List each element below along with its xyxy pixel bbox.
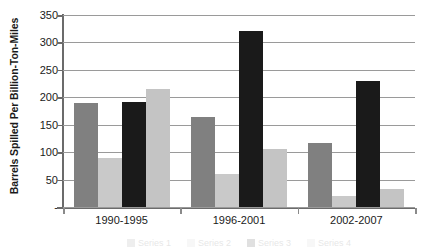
y-tick-label: 300: [22, 37, 58, 48]
y-tick-mark: [57, 125, 63, 127]
y-tick-label: 250: [22, 64, 58, 75]
y-tick-mark: [57, 15, 63, 17]
gridline-0: [63, 207, 415, 208]
y-tick-mark: [57, 152, 63, 154]
bar: [122, 102, 146, 207]
x-tick-mark: [180, 208, 182, 214]
legend-item: Series 3: [247, 238, 291, 248]
legend-item: Series 1: [127, 238, 171, 248]
x-tick-label: 2002-2007: [298, 214, 415, 226]
legend-swatch: [187, 239, 195, 247]
legend-item: Series 4: [307, 238, 351, 248]
bar: [356, 81, 380, 207]
legend-swatch: [247, 239, 255, 247]
legend-label: Series 4: [318, 238, 351, 248]
bar: [380, 189, 404, 207]
legend-swatch: [307, 239, 315, 247]
y-axis-tick-labels: -50100150200250300350: [22, 0, 58, 248]
bar-chart: Barrels Spilled Per Billion-Ton-Miles -5…: [0, 0, 428, 248]
bars-layer: [63, 15, 415, 207]
y-tick-label: 200: [22, 92, 58, 103]
y-tick-label: 350: [22, 10, 58, 21]
x-tick-label: 1990-1995: [63, 214, 180, 226]
x-tick-mark: [63, 208, 65, 214]
bar: [191, 117, 215, 207]
y-tick-label: 100: [22, 147, 58, 158]
x-axis-tick-labels: 1990-19951996-20012002-2007: [63, 214, 415, 234]
y-tick-mark: [57, 97, 63, 99]
bar: [263, 149, 287, 207]
y-tick-label: 150: [22, 119, 58, 130]
y-axis-title: Barrels Spilled Per Billion-Ton-Miles: [8, 0, 20, 212]
bar: [98, 158, 122, 207]
x-tick-mark: [298, 208, 300, 214]
bar: [146, 89, 170, 207]
y-tick-mark: [57, 180, 63, 182]
legend-label: Series 3: [258, 238, 291, 248]
y-tick-label: -: [22, 202, 58, 213]
bar: [332, 196, 356, 207]
bar: [74, 103, 98, 207]
bar: [215, 174, 239, 207]
legend-swatch: [127, 239, 135, 247]
y-tick-mark: [57, 70, 63, 72]
bar: [308, 143, 332, 207]
y-tick-label: 50: [22, 174, 58, 185]
legend-item: Series 2: [187, 238, 231, 248]
x-tick-mark: [415, 208, 417, 214]
x-tick-label: 1996-2001: [180, 214, 297, 226]
y-tick-mark: [57, 42, 63, 44]
bar: [239, 31, 263, 207]
legend-label: Series 2: [198, 238, 231, 248]
legend-label: Series 1: [138, 238, 171, 248]
legend: Series 1Series 2Series 3Series 4: [63, 238, 415, 248]
